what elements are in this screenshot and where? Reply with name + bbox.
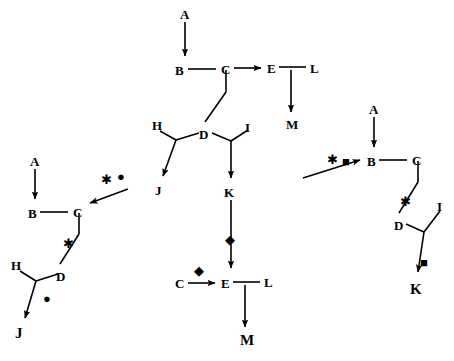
node-C-top: C xyxy=(221,63,230,76)
diagram-connectors xyxy=(0,0,454,361)
symbol-star-left-arrow: ✱ xyxy=(101,173,112,186)
node-B-top: B xyxy=(175,64,184,77)
node-B-left: B xyxy=(28,207,37,220)
symbol-star-left-C: ✱ xyxy=(63,237,74,250)
symbol-circle-left-arrow: ● xyxy=(117,170,125,183)
node-E-top: E xyxy=(267,62,276,75)
node-D-right: D xyxy=(394,219,403,232)
node-L-top: L xyxy=(310,62,319,75)
symbol-diamond-K-arrow: ◆ xyxy=(225,233,235,246)
node-M-bottom: M xyxy=(240,333,254,348)
node-J-left: J xyxy=(15,326,23,341)
symbol-star-right-arrow: ✱ xyxy=(327,153,338,166)
node-C-right: C xyxy=(412,154,421,167)
node-I-right: I xyxy=(437,200,442,213)
node-C-left: C xyxy=(73,206,82,219)
node-D-top: D xyxy=(199,128,208,141)
diagram-canvas: A B C E L M H D I J K A B C H D J ✱ ● ✱ … xyxy=(0,0,454,361)
node-A-top: A xyxy=(180,8,189,21)
symbol-square-right-arrow: ■ xyxy=(342,155,350,168)
symbol-circle-left-D: ● xyxy=(43,292,51,305)
node-E-bottom: E xyxy=(221,277,230,290)
node-H-top: H xyxy=(152,119,162,132)
node-L-bottom: L xyxy=(264,276,273,289)
symbol-star-right-D: ✱ xyxy=(400,195,411,208)
node-K-top: K xyxy=(224,186,234,199)
node-A-left: A xyxy=(30,155,39,168)
node-D-left: D xyxy=(56,270,65,283)
node-K-right: K xyxy=(410,282,422,297)
node-H-left: H xyxy=(11,259,21,272)
node-I-top: I xyxy=(245,121,250,134)
node-A-right: A xyxy=(369,103,378,116)
node-C-bottom: C xyxy=(175,277,184,290)
symbol-square-right-K: ■ xyxy=(420,256,428,269)
node-M-top: M xyxy=(286,118,298,131)
node-B-right: B xyxy=(367,155,376,168)
node-J-top: J xyxy=(155,184,162,197)
symbol-diamond-C-arrow: ◆ xyxy=(194,264,204,277)
